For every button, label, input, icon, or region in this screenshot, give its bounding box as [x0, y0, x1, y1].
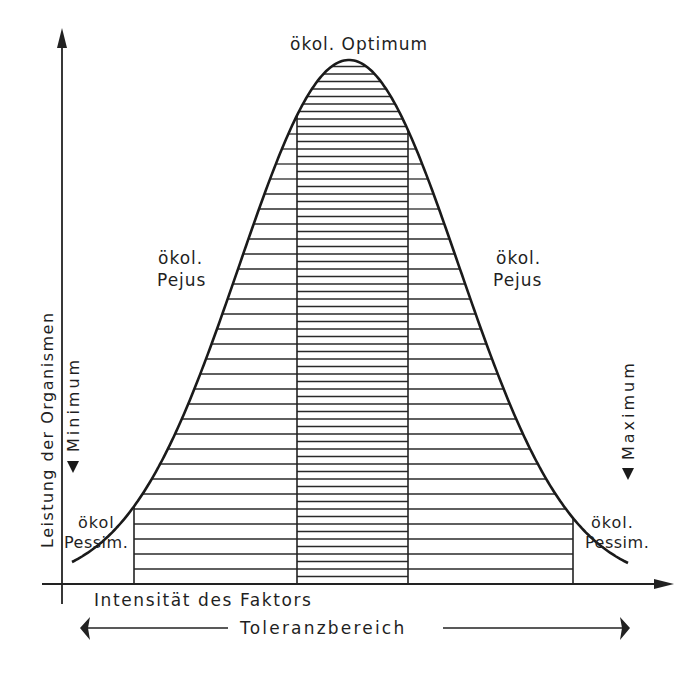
pejus-left-label-line1: ökol. [158, 248, 203, 268]
zone-boundaries [134, 115, 573, 584]
tolerance-range-label: Toleranzbereich [240, 618, 406, 638]
tolerance-curve [72, 60, 628, 563]
pejus-right-label-line2: Pejus [493, 270, 542, 290]
x-axis-label: Intensität des Faktors [94, 590, 313, 610]
y-axis-arrow-icon [57, 28, 67, 48]
x-axis-arrow-icon [654, 579, 674, 589]
pessimum-left-label-line1: ökol. [78, 513, 121, 533]
maximum-label: Maximum [619, 360, 638, 460]
pessimum-left-label-line2: Pessim. [64, 533, 128, 553]
maximum-arrow-icon [622, 468, 634, 480]
pejus-left-label-line2: Pejus [157, 270, 206, 290]
pessimum-right-label-line1: ökol. [591, 513, 634, 533]
tolerance-curve-diagram [0, 0, 699, 679]
minimum-arrow-icon [67, 461, 79, 473]
minimum-label: Minimum [64, 357, 83, 452]
optimum-label: ökol. Optimum [290, 34, 428, 54]
y-axis-label: Leistung der Organismen [38, 311, 57, 548]
hatching [134, 67, 573, 577]
pejus-right-label-line1: ökol. [496, 248, 541, 268]
pessimum-right-label-line2: Pessim. [585, 533, 649, 553]
